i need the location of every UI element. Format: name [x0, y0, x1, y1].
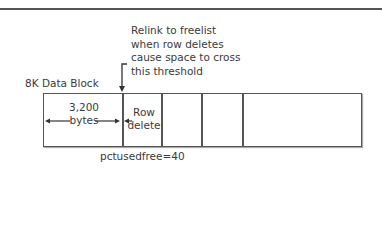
segment-divider [201, 93, 203, 147]
row-delete-line1: Row [124, 106, 164, 118]
block-label: 8K Data Block [25, 77, 99, 89]
row-delete-line2: delete [124, 119, 164, 131]
pctused-label: pctusedfree=40 [100, 150, 185, 162]
segment-size: 3,200 [60, 101, 108, 113]
segment-divider [242, 93, 244, 147]
segment-unit: bytes [60, 114, 108, 126]
